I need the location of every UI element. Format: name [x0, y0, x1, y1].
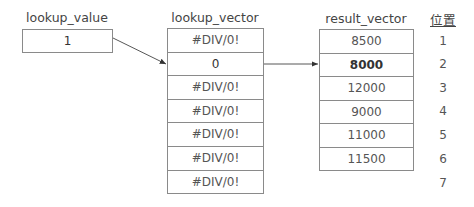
position-number: 2 [432, 57, 454, 71]
position-number: 1 [432, 34, 454, 48]
lookup-value-box: 1 [22, 29, 113, 53]
lookup-vector-cell: #DIV/0! [168, 100, 263, 124]
lookup-vector-cell: #DIV/0! [168, 123, 263, 147]
lookup-vector-title: lookup_vector [160, 10, 270, 25]
result-vector-cell: 11000 [320, 124, 413, 148]
arrow-value-to-lookup [113, 38, 166, 64]
result-vector-cell: 8500 [320, 30, 413, 54]
result-vector-cell-matched: 8000 [320, 54, 413, 78]
lookup-vector-cell: #DIV/0! [168, 171, 263, 195]
result-vector-cell: 12000 [320, 77, 413, 101]
lookup-value-title: lookup_value [2, 10, 132, 25]
lookup-vector-box: #DIV/0! 0 #DIV/0! #DIV/0! #DIV/0! #DIV/0… [167, 28, 264, 194]
position-number: 3 [432, 81, 454, 95]
position-number: 5 [432, 128, 454, 142]
lookup-vector-cell: #DIV/0! [168, 76, 263, 100]
lookup-vector-cell: #DIV/0! [168, 29, 263, 53]
result-vector-cell: 11500 [320, 148, 413, 172]
lookup-value-cell: 1 [23, 30, 112, 52]
position-title: 位置 [426, 10, 460, 29]
position-number: 4 [432, 104, 454, 118]
result-vector-cell: 9000 [320, 101, 413, 125]
result-vector-title: result_vector [312, 11, 420, 26]
lookup-vector-cell-matched: 0 [168, 53, 263, 77]
position-number: 7 [432, 176, 454, 190]
result-vector-box: 8500 8000 12000 9000 11000 11500 [319, 29, 414, 171]
lookup-vector-cell: #DIV/0! [168, 147, 263, 171]
position-number: 6 [432, 152, 454, 166]
